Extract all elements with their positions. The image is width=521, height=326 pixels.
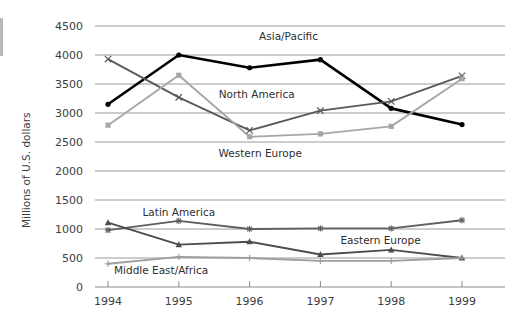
chart-container: 050010001500200025003000350040004500 199… <box>0 0 521 326</box>
x-axis-tick-label: 1997 <box>306 295 334 308</box>
data-point-marker <box>105 261 111 267</box>
series-label-middle-east-africa: Middle East/Africa <box>114 264 208 276</box>
x-axis-tick-label: 1999 <box>448 295 476 308</box>
data-point-marker <box>317 258 323 264</box>
y-axis-title: Millions of U.S. dollars <box>20 112 32 228</box>
data-point-marker <box>105 227 111 233</box>
y-axis-tick-label: 3000 <box>55 107 83 120</box>
x-axis-tick-labels: 199419951996199719981999 <box>94 295 476 308</box>
data-point-marker <box>105 219 111 225</box>
data-point-marker <box>105 56 111 62</box>
series-label-north-america: North America <box>219 88 295 100</box>
x-axis-tick-label: 1996 <box>236 295 264 308</box>
line-chart: 050010001500200025003000350040004500 199… <box>0 0 521 326</box>
x-axis-tick-label: 1995 <box>165 295 193 308</box>
y-axis-tick-label: 1500 <box>55 194 83 207</box>
y-axis-tick-label: 4000 <box>55 49 83 62</box>
data-point-marker <box>176 52 181 57</box>
y-axis-tick-label: 2000 <box>55 165 83 178</box>
data-point-marker <box>247 65 252 70</box>
data-point-marker <box>105 102 110 107</box>
y-axis-tick-label: 3500 <box>55 78 83 91</box>
y-axis-tick-labels: 050010001500200025003000350040004500 <box>55 20 83 294</box>
data-point-marker <box>105 123 110 128</box>
data-point-marker <box>176 218 182 224</box>
y-axis-tick-label: 500 <box>62 252 83 265</box>
data-point-marker <box>389 124 394 129</box>
data-point-marker <box>247 134 252 139</box>
series-label-eastern-europe: Eastern Europe <box>340 234 420 246</box>
series-label-latin-america: Latin America <box>142 206 215 218</box>
data-point-marker <box>459 76 464 81</box>
data-point-marker <box>389 106 394 111</box>
data-point-marker <box>318 131 323 136</box>
y-axis-tick-label: 1000 <box>55 223 83 236</box>
series-line <box>108 75 462 136</box>
data-point-marker <box>246 255 252 261</box>
x-axis-tick-marks <box>108 281 462 287</box>
x-axis-tick-label: 1998 <box>377 295 405 308</box>
x-axis-tick-label: 1994 <box>94 295 122 308</box>
data-point-marker <box>246 226 252 232</box>
data-point-marker <box>317 225 323 231</box>
data-point-marker <box>459 122 464 127</box>
series-label-asia-pacific: Asia/Pacific <box>259 30 318 42</box>
y-axis-tick-label: 2500 <box>55 136 83 149</box>
y-axis-tick-label: 0 <box>76 281 83 294</box>
data-point-marker <box>318 57 323 62</box>
data-point-marker <box>459 217 465 223</box>
y-axis-tick-label: 4500 <box>55 20 83 33</box>
left-edge-marker <box>0 18 3 56</box>
data-point-marker <box>176 254 182 260</box>
data-point-marker <box>176 73 181 78</box>
series-lines-group <box>108 55 462 264</box>
data-point-marker <box>388 225 394 231</box>
data-point-marker <box>388 258 394 264</box>
series-label-western-europe: Western Europe <box>219 147 302 159</box>
